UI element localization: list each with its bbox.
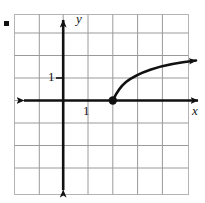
x-axis-label: x bbox=[192, 104, 198, 117]
coordinate-plane-graphic bbox=[0, 0, 205, 203]
grid-lines bbox=[15, 15, 189, 195]
y-axis-label: y bbox=[76, 12, 82, 25]
figure-screenshot: y x 1 1 bbox=[0, 0, 205, 203]
curve-endpoint-dot bbox=[109, 96, 117, 104]
y-axis-tick-label-1: 1 bbox=[48, 70, 55, 83]
x-axis-tick-label-1: 1 bbox=[83, 104, 90, 117]
